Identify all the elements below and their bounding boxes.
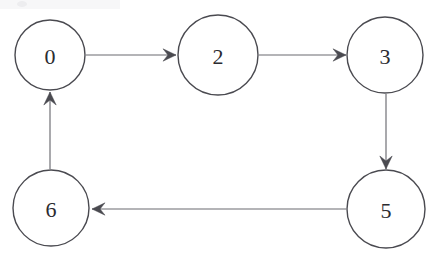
node-label: 0 (45, 44, 56, 69)
graph-diagram: 02356 (0, 0, 434, 256)
node-label: 5 (381, 198, 392, 223)
graph-edge (86, 49, 176, 61)
graph-node[interactable]: 3 (347, 17, 423, 93)
graph-edge (92, 203, 346, 215)
graph-edge (259, 49, 346, 61)
graph-node[interactable]: 0 (15, 20, 85, 90)
graph-node[interactable]: 2 (178, 15, 258, 95)
graph-node[interactable]: 5 (347, 170, 425, 248)
node-label: 2 (213, 44, 224, 69)
node-label: 6 (46, 197, 57, 222)
graph-edge (380, 94, 392, 169)
graph-edge (44, 92, 56, 169)
graph-node[interactable]: 6 (13, 170, 89, 246)
scan-artifact-streak (0, 0, 120, 9)
nodes-layer: 02356 (13, 15, 425, 248)
node-label: 3 (380, 44, 391, 69)
